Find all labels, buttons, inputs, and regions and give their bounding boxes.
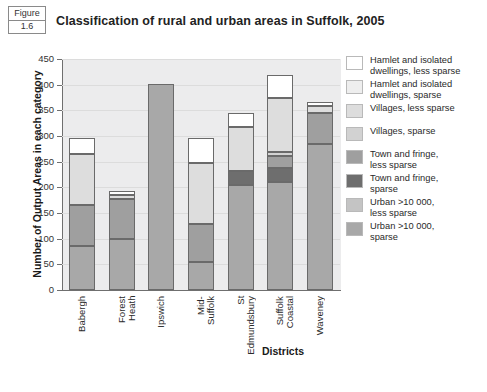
bar-segment[interactable] [228,113,254,127]
legend-item[interactable]: Town and fringe, sparse [346,173,486,194]
bar-segment[interactable] [307,113,333,144]
legend-swatch [346,127,363,141]
legend-swatch [346,56,363,70]
legend-item[interactable]: Villages, sparse [346,126,486,146]
y-axis-tick [57,290,62,291]
x-axis-tick-label: St Edmundsbury [236,296,256,355]
bar-segment[interactable] [109,191,135,194]
bar-segment[interactable] [267,152,293,155]
bar-stack[interactable] [228,59,254,290]
legend-label: Hamlet and isolated dwellings, less spar… [370,55,486,76]
bar-segment[interactable] [148,84,174,290]
legend-swatch [346,198,363,212]
legend-swatch [346,104,363,118]
bar-segment[interactable] [188,138,214,163]
legend-label: Hamlet and isolated dwellings, sparse [370,79,486,100]
x-axis-tick-label: Mid- Suffolk [196,296,216,325]
bar-segment[interactable] [267,168,293,182]
legend-item[interactable]: Town and fringe, less sparse [346,149,486,170]
legend-label: Town and fringe, sparse [370,173,486,194]
bar-stack[interactable] [267,59,293,290]
chart-legend: Hamlet and isolated dwellings, less spar… [346,55,486,245]
bar-segment[interactable] [109,199,135,239]
legend-label: Urban >10 000, less sparse [370,197,486,218]
x-axis-tick-label: Waveney [315,296,325,335]
legend-item[interactable]: Urban >10 000, sparse [346,221,486,242]
bar-stack[interactable] [148,59,174,290]
bar-segment[interactable] [69,246,95,290]
bar-segment[interactable] [228,127,254,171]
bar-stack[interactable] [109,59,135,290]
legend-swatch [346,174,363,188]
x-axis-tick-label: Suffolk Coastal [275,296,295,328]
bar-segment[interactable] [228,185,254,290]
x-axis-tick-label: Ipswich [156,296,166,328]
bar-stack[interactable] [307,59,333,290]
bar-segment[interactable] [69,205,95,246]
legend-label: Town and fringe, less sparse [370,149,486,170]
legend-label: Villages, less sparse [370,103,486,114]
bar-segment[interactable] [188,163,214,225]
bar-segment[interactable] [69,138,95,154]
legend-item[interactable]: Villages, less sparse [346,103,486,123]
bar-segment[interactable] [188,262,214,290]
bar-segment[interactable] [109,195,135,199]
bar-segment[interactable] [267,98,293,153]
bar-segment[interactable] [307,144,333,290]
bar-segment[interactable] [267,156,293,168]
bar-series-group [62,59,340,290]
bar-stack[interactable] [188,59,214,290]
legend-item[interactable]: Urban >10 000, less sparse [346,197,486,218]
bar-segment[interactable] [228,171,254,185]
legend-item[interactable]: Hamlet and isolated dwellings, less spar… [346,55,486,76]
bar-segment[interactable] [267,75,293,97]
bar-stack[interactable] [69,59,95,290]
x-axis-tick-label: Babergh [77,296,87,332]
bar-segment[interactable] [69,154,95,205]
legend-swatch [346,150,363,164]
legend-item[interactable]: Hamlet and isolated dwellings, sparse [346,79,486,100]
bar-segment[interactable] [109,239,135,290]
legend-swatch [346,222,363,236]
bar-segment[interactable] [267,182,293,290]
bar-segment[interactable] [307,106,333,113]
bar-segment[interactable] [188,224,214,261]
x-axis-tick-label: Forest Heath [117,296,137,323]
bar-segment[interactable] [307,102,333,106]
legend-label: Urban >10 000, sparse [370,221,486,242]
x-axis-title: Districts [262,345,304,357]
y-axis-title: Number of Output Areas in each category [31,59,43,289]
legend-label: Villages, sparse [370,126,486,137]
legend-swatch [346,80,363,94]
